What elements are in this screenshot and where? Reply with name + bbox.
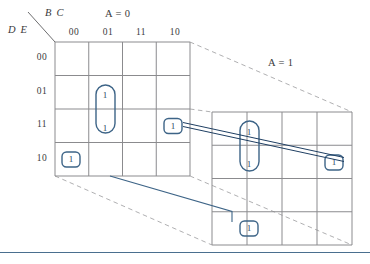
- cell-one-map-a1-de10-bc00: 1: [242, 221, 256, 235]
- map-a0-row-header-00: 00: [33, 52, 51, 62]
- map-a1-title: A = 1: [268, 57, 293, 68]
- cell-one-map-a1-de11-bc01: 1: [242, 157, 256, 171]
- perspective-line-bottom-right: [190, 176, 352, 245]
- map-a0-title: A = 0: [105, 8, 130, 19]
- map-a0-col-header-10: 10: [164, 27, 186, 37]
- map-a0-col-header-00: 00: [63, 27, 85, 37]
- perspective-guides: [55, 42, 352, 245]
- link-bc10-pair-strand-b: [183, 127, 344, 162]
- perspective-line-top: [190, 42, 352, 112]
- five-variable-kmap-figure: B C D E A = 0 00 01 11 10 00 01 11 10 A …: [0, 0, 370, 264]
- kmap-canvas: [0, 0, 370, 264]
- map-a0-row-header-11: 11: [33, 119, 51, 129]
- cell-one-map-a0-de11-bc01: 1: [98, 121, 112, 135]
- cell-one-map-a0-de11-bc10: 1: [166, 119, 180, 133]
- column-variable-label: B C: [45, 7, 65, 18]
- map-a0-row-header-10: 10: [33, 153, 51, 163]
- map-a0-row-header-01: 01: [33, 86, 51, 96]
- cell-one-map-a0-de10-bc00: 1: [64, 152, 78, 166]
- perspective-line-bottom: [55, 176, 212, 245]
- link-de10-pair-strand: [110, 176, 232, 222]
- cell-one-map-a0-de01-bc01: 1: [98, 88, 112, 102]
- map-a0-col-header-11: 11: [130, 27, 152, 37]
- link-bc10-pair-strand-a: [183, 123, 344, 158]
- map-a1-grid: [212, 112, 352, 245]
- map-a0-col-header-01: 01: [97, 27, 119, 37]
- cell-one-map-a1-de11-bc10: 1: [327, 155, 341, 169]
- perspective-line-middle: [190, 109, 212, 112]
- cell-one-map-a1-de01-bc01: 1: [242, 125, 256, 139]
- cross-map-links: [110, 123, 344, 223]
- row-variable-label: D E: [8, 24, 28, 35]
